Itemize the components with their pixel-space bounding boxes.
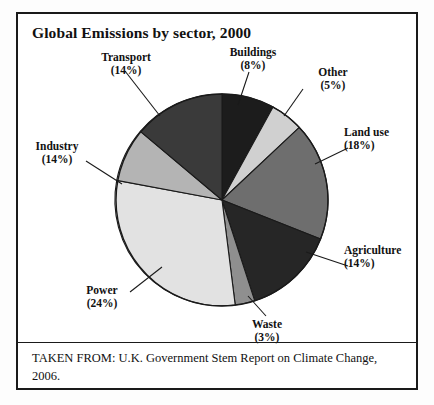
pie-label-waste: Waste (3%) bbox=[236, 318, 298, 344]
pie-label-other: Other (5%) bbox=[300, 66, 366, 92]
pie-label-other-pct: (5%) bbox=[300, 79, 366, 92]
source-note: TAKEN FROM: U.K. Government Stem Report … bbox=[32, 350, 404, 386]
pie-label-buildings-pct: (8%) bbox=[210, 59, 296, 72]
leader-line-agriculture bbox=[306, 252, 348, 266]
pie-label-agriculture-pct: (14%) bbox=[344, 257, 420, 270]
pie-label-agriculture-name: Agriculture bbox=[344, 244, 401, 256]
pie-label-transport-name: Transport bbox=[101, 51, 151, 63]
pie-label-power-pct: (24%) bbox=[70, 297, 134, 310]
pie-label-industry: Industry (14%) bbox=[24, 140, 90, 166]
pie-label-land-use: Land use (18%) bbox=[344, 126, 416, 152]
figure-frame: Global Emissions by sector, 2000 bbox=[16, 12, 418, 390]
pie-label-buildings-name: Buildings bbox=[230, 46, 277, 58]
pie-label-power-name: Power bbox=[86, 284, 117, 296]
leader-line-other bbox=[284, 89, 303, 116]
pie-label-agriculture: Agriculture (14%) bbox=[344, 244, 420, 270]
leader-line-transport bbox=[125, 71, 160, 116]
pie-label-waste-name: Waste bbox=[252, 318, 282, 330]
leader-line-industry bbox=[86, 161, 122, 184]
pie-chart: Transport (14%) Buildings (8%) Other (5%… bbox=[18, 44, 416, 334]
pie-label-power: Power (24%) bbox=[70, 284, 134, 310]
pie-label-transport: Transport (14%) bbox=[80, 51, 172, 77]
pie-label-other-name: Other bbox=[318, 66, 347, 78]
pie-label-industry-name: Industry bbox=[36, 140, 79, 152]
pie-label-land-use-pct: (18%) bbox=[344, 139, 416, 152]
scanned-page: Global Emissions by sector, 2000 bbox=[0, 0, 434, 405]
pie-label-transport-pct: (14%) bbox=[80, 64, 172, 77]
pie-label-land-use-name: Land use bbox=[344, 126, 389, 138]
pie-label-industry-pct: (14%) bbox=[24, 153, 90, 166]
pie-label-buildings: Buildings (8%) bbox=[210, 46, 296, 72]
source-divider bbox=[18, 342, 416, 343]
figure-title: Global Emissions by sector, 2000 bbox=[32, 24, 251, 42]
